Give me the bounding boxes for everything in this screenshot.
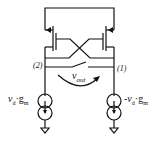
left-source-arrowhead-icon bbox=[43, 110, 47, 114]
top-wire bbox=[45, 8, 114, 30]
vout-label: vout bbox=[72, 71, 85, 84]
left-ground-icon bbox=[41, 128, 49, 133]
g-sub: m bbox=[143, 100, 148, 106]
right-source-label: -vd·gm bbox=[124, 94, 148, 106]
g-sub: m bbox=[24, 100, 29, 106]
right-ground-icon bbox=[110, 128, 118, 133]
node-2-label: (2) bbox=[33, 62, 42, 70]
node-1-label: (1) bbox=[117, 65, 126, 73]
right-pmos-arrow-icon bbox=[108, 27, 113, 33]
switch bbox=[45, 62, 114, 67]
left-source-label: vd·gm bbox=[8, 94, 28, 106]
right-source-arrowhead-icon bbox=[112, 110, 116, 114]
left-pmos-arrow-icon bbox=[46, 27, 51, 33]
left-gate-cross bbox=[56, 39, 114, 58]
vout-subscript: out bbox=[76, 76, 85, 84]
right-gate-cross bbox=[45, 39, 103, 58]
